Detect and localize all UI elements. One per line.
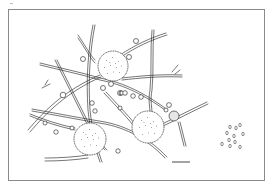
figure-frame (9, 10, 265, 181)
mycology-illustration (0, 0, 273, 190)
sphere-left (74, 123, 106, 155)
sphere-top (98, 51, 128, 81)
sphere-right (132, 111, 164, 143)
swollen-cell (169, 111, 179, 121)
spore-cluster (221, 123, 244, 149)
